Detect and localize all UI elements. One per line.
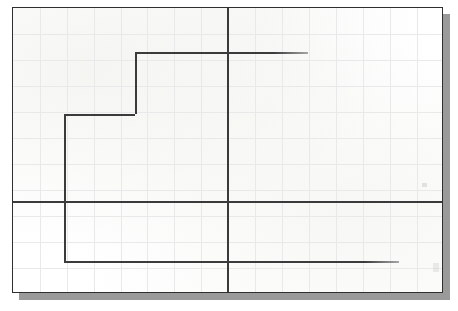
series-segment-horizontal (64, 114, 135, 116)
grid-line-vertical (363, 8, 364, 292)
grid-line-vertical (417, 8, 418, 292)
graph-paper-sheet (12, 7, 443, 293)
grid-line-vertical (390, 8, 391, 292)
grid-line-vertical (336, 8, 337, 292)
grid-line-vertical (201, 8, 202, 292)
grid-line-vertical (121, 8, 122, 292)
grid-line-vertical (40, 8, 41, 292)
series-segment-vertical (135, 52, 137, 114)
grid-line-vertical (309, 8, 310, 292)
grid-line-vertical (174, 8, 175, 292)
grid-line-vertical (147, 8, 148, 292)
series-segment-horizontal (64, 261, 399, 263)
scan-speck (433, 263, 439, 272)
grid-line-vertical (94, 8, 95, 292)
grid-line-vertical (255, 8, 256, 292)
screenshot-canvas (0, 0, 458, 311)
series-segment-vertical (64, 114, 66, 261)
grid-line-vertical (282, 8, 283, 292)
scan-speck (422, 183, 427, 187)
series-segment-horizontal (135, 52, 308, 54)
grid-line-vertical (67, 8, 68, 292)
y-axis-line (227, 8, 229, 293)
